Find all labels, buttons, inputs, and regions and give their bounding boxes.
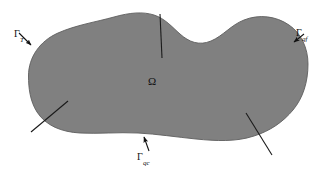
gamma-symbol-qc: Γ bbox=[137, 151, 143, 162]
domain-diagram-figure: ΓT Γqf Γqc Ω bbox=[0, 0, 331, 174]
boundary-label-gamma-T: ΓT bbox=[14, 29, 24, 42]
arrow-gamma-qc bbox=[144, 137, 149, 151]
gamma-subscript-qf: qf bbox=[302, 35, 307, 43]
gamma-symbol-T: Γ bbox=[14, 28, 20, 39]
domain-region-omega bbox=[29, 13, 309, 141]
gamma-symbol-qf: Γ bbox=[296, 27, 302, 38]
gamma-subscript-qc: qc bbox=[143, 159, 150, 167]
gamma-subscript-T: T bbox=[20, 36, 24, 44]
boundary-label-gamma-qf: Γqf bbox=[296, 28, 307, 41]
domain-label-omega: Ω bbox=[148, 76, 156, 87]
diagram-canvas bbox=[0, 0, 331, 174]
boundary-label-gamma-qc: Γqc bbox=[137, 152, 149, 165]
